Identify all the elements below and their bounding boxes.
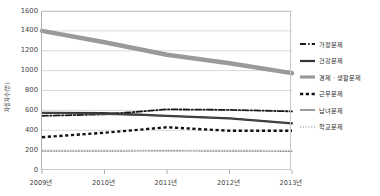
x-tick-2012년: 2012년: [207, 177, 251, 187]
legend-item-5[interactable]: 학교문제: [300, 119, 380, 136]
legend-item-2[interactable]: 경제 · 생활문제: [300, 69, 380, 86]
legend-item-0[interactable]: 가정문제: [300, 36, 380, 53]
y-axis-tick-labels: 02004006008001000120014001600: [8, 0, 38, 196]
line-chart: 자살자수(명) 02004006008001000120014001600 20…: [0, 0, 380, 196]
plot-area: [41, 11, 291, 170]
y-tick-200: 200: [8, 147, 38, 154]
series-line-3: [42, 127, 292, 137]
x-tick-2009년: 2009년: [19, 177, 63, 187]
legend-swatch-icon: [300, 73, 315, 81]
legend-swatch-icon: [300, 106, 315, 114]
y-tick-1200: 1200: [8, 47, 38, 54]
legend-label: 남녀문제: [319, 106, 343, 115]
legend-label: 근무문제: [319, 89, 343, 98]
y-tick-600: 600: [8, 107, 38, 114]
legend-label: 건강문제: [319, 56, 343, 65]
x-tick-2011년: 2011년: [144, 177, 188, 187]
x-tick-2010년: 2010년: [82, 177, 126, 187]
y-tick-400: 400: [8, 127, 38, 134]
legend-label: 경제 · 생활문제: [319, 73, 361, 82]
legend-swatch-icon: [300, 123, 315, 131]
legend-label: 학교문제: [319, 122, 343, 131]
series-line-2: [42, 31, 292, 73]
legend-label: 가정문제: [319, 40, 343, 49]
y-tick-1600: 1600: [8, 8, 38, 15]
legend-swatch-icon: [300, 90, 315, 98]
legend-item-3[interactable]: 근무문제: [300, 86, 380, 103]
data-series-group: [42, 31, 292, 151]
y-tick-800: 800: [8, 87, 38, 94]
y-tick-1000: 1000: [8, 67, 38, 74]
chart-legend: 가정문제건강문제경제 · 생활문제근무문제남녀문제학교문제: [300, 36, 380, 135]
y-tick-1400: 1400: [8, 27, 38, 34]
legend-item-1[interactable]: 건강문제: [300, 53, 380, 70]
legend-swatch-icon: [300, 57, 315, 65]
series-layer: [42, 11, 292, 170]
y-tick-0: 0: [8, 167, 38, 174]
x-tick-2013년: 2013년: [269, 177, 313, 187]
legend-swatch-icon: [300, 40, 315, 48]
legend-item-4[interactable]: 남녀문제: [300, 102, 380, 119]
